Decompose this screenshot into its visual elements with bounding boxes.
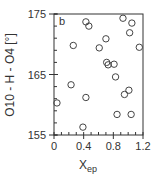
data-point-marker (83, 94, 89, 100)
y-tick-label: 165 (28, 69, 46, 81)
data-point-marker (70, 42, 76, 48)
data-point-marker (96, 45, 102, 51)
y-tick-label: 155 (28, 129, 46, 141)
x-tick-label: 0.8 (106, 140, 121, 152)
axis-ticks (49, 14, 143, 139)
data-point-marker (128, 111, 134, 117)
data-point-marker (103, 36, 109, 42)
data-point-marker (126, 30, 132, 36)
data-point-marker (136, 44, 142, 50)
data-point-marker (54, 100, 60, 106)
y-tick-label: 175 (28, 8, 46, 20)
x-axis-label: Xep (79, 158, 97, 174)
x-tick-label: 1.2 (135, 140, 150, 152)
data-point-marker (129, 20, 135, 26)
scatter-chart: 00.40.81.2155165175 b Xep O10 - H - O4 [… (0, 0, 157, 181)
data-point-marker (114, 111, 120, 117)
x-tick-label: 0 (51, 140, 57, 152)
data-point-marker (121, 91, 127, 97)
y-axis-label: O10 - H - O4 [°] (3, 33, 17, 116)
data-point-marker (111, 61, 117, 67)
x-axis-label-subscript: ep (87, 164, 97, 174)
data-point-marker (112, 74, 118, 80)
data-point-marker (120, 15, 126, 21)
data-point-marker (68, 82, 74, 88)
panel-label: b (59, 15, 65, 27)
x-axis-label-main: X (79, 158, 87, 172)
x-tick-label: 0.4 (76, 140, 91, 152)
data-point-marker (80, 124, 86, 130)
data-points (54, 15, 143, 130)
